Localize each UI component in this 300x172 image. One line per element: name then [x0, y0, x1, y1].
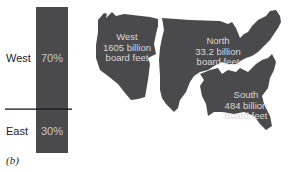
bar-value-label: 30% [41, 125, 63, 137]
figure-caption: (b) [6, 154, 19, 167]
bar-category-label: East [6, 125, 28, 137]
stacked-bar: West70%East30% [5, 7, 72, 153]
bar-category-label: West [6, 52, 31, 64]
figure: West70%East30% West1605 billionboard fee… [0, 0, 300, 172]
bar-value-label: 70% [41, 52, 63, 64]
